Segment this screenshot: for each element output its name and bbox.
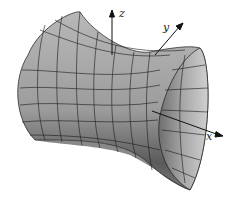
x-axis-label: x	[206, 130, 212, 143]
y-axis-label: y	[163, 21, 169, 34]
hyperboloid-figure: z y x	[0, 0, 239, 206]
z-axis-label: z	[119, 7, 125, 20]
hyperboloid-surface	[0, 0, 239, 206]
